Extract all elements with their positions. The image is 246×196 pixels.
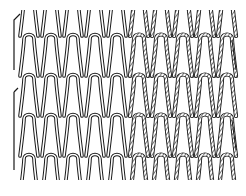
mesh-loops [20,0,236,196]
knitted-mesh-illustration [0,0,246,196]
